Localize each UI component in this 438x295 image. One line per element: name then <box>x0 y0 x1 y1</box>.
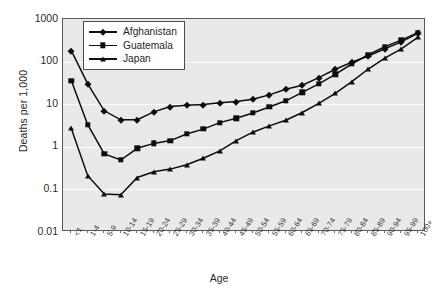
data-point-marker <box>234 115 239 120</box>
data-point-marker <box>349 61 354 66</box>
data-point-marker <box>365 67 371 72</box>
plot-area: Afghanistan Guatemala Japan <box>62 18 425 231</box>
data-point-marker <box>233 138 239 143</box>
legend-marker-diamond-icon <box>88 26 118 38</box>
data-point-marker <box>217 148 223 153</box>
data-point-marker <box>167 167 173 172</box>
data-point-marker <box>267 104 272 109</box>
data-point-marker <box>184 162 190 167</box>
data-point-marker <box>200 156 206 161</box>
y-tick-label: 10 <box>14 98 58 108</box>
x-axis-title: Age <box>0 272 438 284</box>
figure-caption-partial <box>8 286 308 295</box>
y-tick-label: 1 <box>14 140 58 150</box>
data-point-marker <box>201 126 206 131</box>
legend-marker-square-icon <box>88 39 118 51</box>
legend-item-japan: Japan <box>88 52 177 66</box>
legend-item-guatemala: Guatemala <box>88 39 177 53</box>
data-point-marker <box>151 141 156 146</box>
x-axis-tick-labels: <11-45-910-1415-1920-2425-2930-3435-3940… <box>0 233 438 275</box>
data-point-marker <box>316 81 321 86</box>
data-point-marker <box>102 151 107 156</box>
data-point-marker <box>398 46 404 51</box>
data-point-marker <box>399 37 404 42</box>
data-point-marker <box>283 98 288 103</box>
data-point-marker <box>134 175 140 180</box>
data-point-marker <box>332 91 338 96</box>
data-point-marker <box>333 72 338 77</box>
data-point-marker <box>101 192 107 197</box>
y-tick-label: 1000 <box>14 13 58 23</box>
data-point-marker <box>118 157 123 162</box>
data-point-marker <box>382 44 387 49</box>
data-point-marker <box>217 120 222 125</box>
data-point-marker <box>168 138 173 143</box>
data-point-marker <box>382 56 388 61</box>
data-point-marker <box>135 146 140 151</box>
figure-mortality-by-age: Deaths per 1,000 10001001010.10.01 Afgha… <box>0 0 438 295</box>
data-point-marker <box>85 173 91 178</box>
data-point-marker <box>415 35 421 40</box>
data-point-marker <box>184 131 189 136</box>
data-point-marker <box>151 169 157 174</box>
legend-label: Afghanistan <box>118 26 177 37</box>
data-point-marker <box>300 90 305 95</box>
data-point-marker <box>349 79 355 84</box>
y-tick-label: 0.1 <box>14 183 58 193</box>
legend-item-afghanistan: Afghanistan <box>88 25 177 39</box>
legend-label: Guatemala <box>118 40 173 51</box>
data-point-marker <box>250 110 255 115</box>
data-point-marker <box>118 192 124 197</box>
data-point-marker <box>299 110 305 115</box>
data-point-marker <box>366 52 371 57</box>
data-point-marker <box>69 78 74 83</box>
data-point-marker <box>85 122 90 127</box>
data-point-marker <box>250 130 256 135</box>
legend-marker-triangle-icon <box>88 53 118 65</box>
data-point-marker <box>283 118 289 123</box>
y-tick-label: 100 <box>14 55 58 65</box>
data-point-marker <box>266 123 272 128</box>
chart-legend: Afghanistan Guatemala Japan <box>83 21 185 70</box>
data-point-marker <box>316 101 322 106</box>
data-point-marker <box>68 126 74 131</box>
legend-label: Japan <box>118 53 151 64</box>
